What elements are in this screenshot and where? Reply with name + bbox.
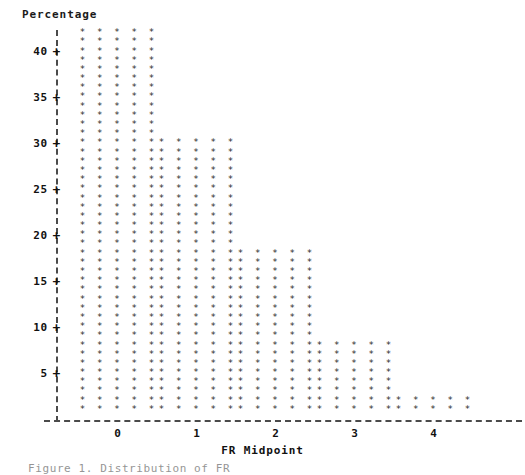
bar: * * * * ** * * * ** * * * ** * * * ** * … — [92, 28, 144, 414]
x-axis-tick-label: 3 — [335, 427, 375, 441]
bar: * * * * ** * * * * — [408, 396, 460, 414]
bar-star-row: * * * * * — [79, 405, 158, 414]
y-axis-tick: + — [51, 322, 62, 333]
x-axis-tick-label: 0 — [98, 427, 138, 441]
y-axis-tick-label: 40 — [8, 45, 48, 58]
y-axis-tick-label: 25 — [8, 183, 48, 196]
bar-star-row: * * * * * — [395, 405, 474, 414]
y-axis-tick: + — [51, 46, 62, 57]
bar: * * * * ** * * * ** * * * ** * * * ** * … — [250, 249, 302, 414]
y-axis-title: Percentage — [22, 8, 97, 21]
bar: * * * * ** * * * ** * * * ** * * * ** * … — [329, 341, 381, 415]
y-axis-tick-label: 10 — [8, 321, 48, 334]
bar-star-row: * * * * * — [158, 405, 237, 414]
y-axis-tick-label: 20 — [8, 229, 48, 242]
y-axis-tick: + — [51, 230, 62, 241]
x-axis-tick-label: 2 — [256, 427, 296, 441]
bar-star-row: * * * * * — [316, 405, 395, 414]
y-axis-tick: + — [51, 184, 62, 195]
y-axis-line — [56, 30, 58, 422]
x-axis-line — [44, 420, 522, 422]
y-axis-tick-label: 5 — [8, 367, 48, 380]
y-axis-tick-label: 30 — [8, 137, 48, 150]
x-axis-tick-label: 1 — [177, 427, 217, 441]
bar: * * * * ** * * * ** * * * ** * * * ** * … — [171, 138, 223, 414]
y-axis-tick: + — [51, 368, 62, 379]
y-axis-tick-label: 35 — [8, 91, 48, 104]
y-axis-tick: + — [51, 92, 62, 103]
y-axis-tick-label: 15 — [8, 275, 48, 288]
y-axis-tick: + — [51, 276, 62, 287]
y-axis-tick: + — [51, 138, 62, 149]
figure-caption: Figure 1. Distribution of FR — [28, 462, 230, 475]
x-axis-title: FR Midpoint — [0, 444, 525, 457]
x-axis-tick-label: 4 — [414, 427, 454, 441]
bar-star-row: * * * * * — [237, 405, 316, 414]
